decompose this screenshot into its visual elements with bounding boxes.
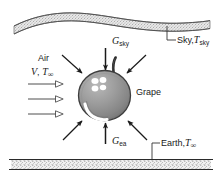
heat-transfer-diagram: Sky,Tsky Earth,T∞ Air V, T∞ Grape Gsky G…: [0, 0, 223, 183]
label-earth-subscript: ∞: [191, 141, 197, 150]
label-g-sky-subscript: sky: [119, 40, 129, 47]
cloud-band: [14, 13, 210, 34]
arrow-sky-right: [127, 55, 146, 73]
label-sky-subscript: sky: [199, 39, 209, 46]
label-air-conditions: V, T∞: [31, 67, 53, 77]
label-air: Air: [38, 54, 49, 63]
earth-leader-line: [152, 143, 160, 159]
label-sky-text: Sky,: [177, 35, 194, 45]
grape-sphere: [79, 58, 131, 121]
ground-band: [9, 160, 213, 170]
label-grape: Grape: [136, 88, 161, 97]
arrow-earth-left: [63, 121, 82, 140]
label-air-temp-subscript: ∞: [48, 70, 54, 79]
label-earth-text: Earth,: [161, 138, 185, 148]
label-g-ea-subscript: ea: [119, 140, 126, 147]
label-air-temp-symbol: T: [42, 66, 48, 77]
label-air-comma: ,: [37, 67, 40, 77]
label-earth: Earth,T∞: [161, 138, 196, 148]
label-earth-symbol: T: [185, 137, 191, 148]
arrow-sky-left: [62, 55, 82, 73]
air-flow-arrows: [28, 84, 56, 114]
earth-irradiation-arrows: [63, 121, 147, 144]
sky-irradiation-arrows: [62, 48, 146, 73]
diagram-canvas: [0, 0, 223, 183]
label-g-sky: Gsky: [112, 36, 129, 46]
arrow-earth-right: [128, 121, 147, 140]
label-g-ea: Gea: [112, 136, 126, 146]
label-sky: Sky,Tsky: [177, 35, 209, 45]
